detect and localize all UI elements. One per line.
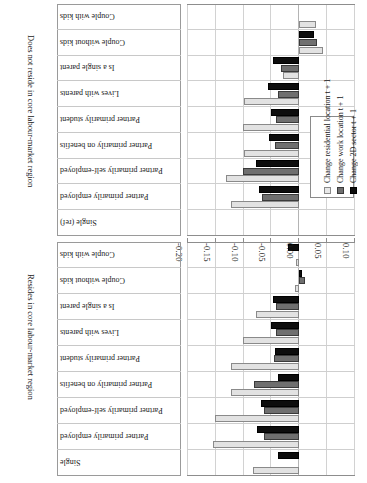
legend-item[interactable]: Change residential location t + 1 — [323, 79, 332, 194]
axis-tick-mark — [298, 238, 299, 242]
bar — [215, 415, 299, 422]
category-separator — [187, 293, 355, 294]
bar — [226, 175, 299, 182]
gridline — [187, 4, 188, 236]
legend-label: Change 2D sector t + 1 — [349, 109, 358, 183]
bar — [283, 72, 299, 79]
category-label-separator — [57, 345, 181, 346]
category-separator — [187, 319, 355, 320]
category-label-separator — [57, 423, 181, 424]
bar — [278, 374, 299, 381]
category-label: Couple with kids — [57, 242, 181, 268]
bar — [253, 467, 299, 474]
bar — [231, 389, 299, 396]
category-separator — [187, 29, 355, 30]
bar — [271, 322, 299, 329]
bar — [296, 259, 299, 266]
bar — [295, 285, 299, 292]
category-label-separator — [57, 29, 181, 30]
bar — [275, 142, 299, 149]
category-label-separator — [57, 449, 181, 450]
bar — [273, 296, 299, 303]
category-label: Couple with kids — [57, 4, 181, 30]
bar — [243, 124, 299, 131]
bar — [256, 311, 299, 318]
bar — [278, 91, 299, 98]
legend-label: Change residential location t + 1 — [323, 79, 332, 183]
category-label: Is a single parent — [57, 294, 181, 320]
facet-panel-resides — [0, 242, 367, 476]
legend-label: Change work location t + 1 — [336, 96, 345, 183]
axis-tick-mark — [270, 238, 271, 242]
bar — [244, 98, 299, 105]
gridline — [215, 4, 216, 236]
bar — [256, 160, 299, 167]
axis-tick-label: 0.10 — [341, 243, 351, 259]
category-label: Lives with parents — [57, 320, 181, 346]
category-label-separator — [57, 293, 181, 294]
bar — [213, 441, 299, 448]
bar — [269, 134, 299, 141]
category-label: Partner primarily student — [57, 346, 181, 372]
bar — [243, 337, 299, 344]
gridline — [326, 242, 327, 476]
category-label-separator — [57, 183, 181, 184]
legend-item[interactable]: Change 2D sector t + 1 — [349, 109, 358, 194]
facet-title: Resides in core labour-market region — [26, 274, 36, 400]
category-label: Partner primarily on benefits — [57, 372, 181, 398]
plot-border — [187, 242, 355, 243]
category-label-separator — [57, 371, 181, 372]
bar — [273, 57, 299, 64]
category-label-separator — [57, 80, 181, 81]
category-separator — [187, 423, 355, 424]
category-label-separator — [57, 209, 181, 210]
category-label-separator — [57, 158, 181, 159]
category-label: Lives with parents — [57, 81, 181, 107]
bar — [264, 433, 299, 440]
bar — [299, 39, 317, 46]
bar — [231, 201, 299, 208]
category-label: Partner primarily student — [57, 107, 181, 133]
bar — [262, 194, 299, 201]
axis-tick-mark — [326, 238, 327, 242]
bar — [274, 355, 299, 362]
axis-tick-label: -0.15 — [202, 243, 212, 262]
category-label: Single (ref) — [57, 210, 181, 236]
category-label-separator — [57, 106, 181, 107]
bar — [264, 407, 299, 414]
category-label: Partner primarily self-employed — [57, 158, 181, 184]
bar — [257, 426, 299, 433]
figure-root: 0.100.050.00-0.05-0.10-0.15-0.20 SingleP… — [0, 0, 367, 483]
legend-swatch-icon — [337, 187, 344, 194]
category-separator — [187, 267, 355, 268]
bar — [276, 116, 299, 123]
gridline — [187, 242, 188, 476]
category-label-separator — [57, 267, 181, 268]
axis-tick-mark — [354, 238, 355, 242]
axis-tick-mark — [215, 238, 216, 242]
legend-swatch-icon — [350, 187, 357, 194]
bar — [276, 303, 299, 310]
plot-border — [187, 4, 355, 5]
bar — [244, 150, 299, 157]
bar — [299, 277, 305, 284]
bar — [299, 31, 314, 38]
bar — [299, 47, 323, 54]
category-label: Couple without kids — [57, 30, 181, 56]
bar — [276, 329, 299, 336]
bar — [275, 348, 299, 355]
category-label: Single — [57, 450, 181, 476]
chart-legend: Change 2D sector t + 1Change work locati… — [310, 116, 354, 198]
category-label: Partner primarily employed — [57, 184, 181, 210]
bar — [271, 109, 299, 116]
category-label-separator — [57, 319, 181, 320]
legend-swatch-icon — [324, 187, 331, 194]
category-label: Partner primarily employed — [57, 424, 181, 450]
category-separator — [187, 397, 355, 398]
category-label: Couple without kids — [57, 268, 181, 294]
axis-tick-label: -0.10 — [230, 243, 240, 262]
bar — [231, 363, 299, 370]
category-label: Partner primarily on benefits — [57, 133, 181, 159]
legend-item[interactable]: Change work location t + 1 — [336, 96, 345, 194]
axis-tick-label: 0.00 — [285, 243, 295, 259]
